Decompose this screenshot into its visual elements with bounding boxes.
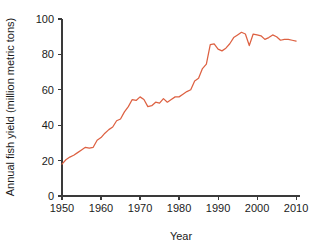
y-axis: 020406080100 (36, 13, 62, 202)
chart-figure: 020406080100 195019601970198019902000201… (0, 0, 318, 245)
data-line-annual-fish-yield (62, 32, 296, 164)
x-tick-label: 1990 (206, 202, 230, 214)
y-axis-tick-labels: 020406080100 (36, 13, 54, 202)
line-chart: 020406080100 195019601970198019902000201… (0, 0, 318, 245)
x-axis-title: Year (170, 230, 193, 242)
x-tick-label: 2010 (284, 202, 308, 214)
x-tick-label: 1980 (167, 202, 191, 214)
x-tick-label: 1950 (50, 202, 74, 214)
plot-area (62, 32, 296, 164)
y-tick-label: 100 (36, 13, 54, 25)
x-tick-label: 2000 (245, 202, 269, 214)
x-axis-ticks (62, 196, 296, 200)
x-axis: 1950196019701980199020002010 (50, 196, 309, 214)
y-tick-label: 60 (42, 84, 54, 96)
y-tick-label: 0 (48, 190, 54, 202)
y-axis-title: Annual fish yield (million metric tons) (4, 18, 16, 197)
y-tick-label: 20 (42, 155, 54, 167)
x-tick-label: 1960 (89, 202, 113, 214)
y-tick-label: 80 (42, 48, 54, 60)
x-tick-label: 1970 (128, 202, 152, 214)
y-tick-label: 40 (42, 119, 54, 131)
x-axis-tick-labels: 1950196019701980199020002010 (50, 202, 309, 214)
y-axis-ticks (58, 19, 62, 196)
